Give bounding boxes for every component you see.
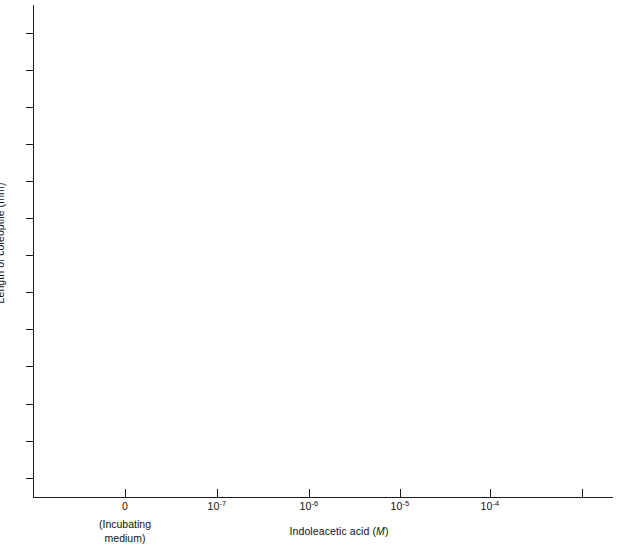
tick-label-base: 10 — [300, 500, 312, 512]
x-axis-title-unit-wrap: (M) — [369, 525, 388, 537]
tick-label-base: 10 — [481, 500, 493, 512]
y-axis-tick — [26, 181, 33, 182]
y-axis-tick — [26, 107, 33, 108]
y-axis-tick — [26, 218, 33, 219]
y-axis-tick — [26, 292, 33, 293]
x-axis-tick — [582, 489, 583, 497]
x-axis-tick-label: 10-6 — [300, 500, 319, 513]
x-axis-tick-label: 10-7 — [208, 500, 227, 513]
x-axis-tick-label: 10-5 — [391, 500, 410, 513]
x-axis-title: Indoleacetic acid (M) — [289, 525, 388, 537]
x-axis-tick — [125, 489, 126, 497]
y-axis-tick — [26, 70, 33, 71]
y-axis-tick — [26, 255, 33, 256]
x-axis-tick — [400, 489, 401, 497]
x-axis-tick — [490, 489, 491, 497]
y-axis-tick — [26, 144, 33, 145]
tick-label-exponent: -6 — [312, 499, 319, 508]
x-axis-title-unit: M — [376, 525, 385, 537]
tick-label-exponent: -4 — [493, 499, 500, 508]
y-axis-title-text: Length of coleoptile (mm) — [0, 183, 6, 320]
x-axis-title-text: Indoleacetic acid — [289, 525, 369, 537]
incubating-note-line-2: medium) — [99, 531, 151, 545]
x-axis-line — [33, 497, 613, 498]
y-axis-tick — [26, 33, 33, 34]
x-axis-tick-label: 0 — [122, 500, 128, 513]
y-axis-tick — [26, 404, 33, 405]
plot-area — [34, 5, 613, 497]
incubating-note-line-1: (Incubating — [99, 517, 151, 531]
x-axis-tick — [309, 489, 310, 497]
x-axis-tick — [217, 489, 218, 497]
y-axis-tick — [26, 478, 33, 479]
x-axis-tick-label: 10-4 — [481, 500, 500, 513]
y-axis-title: Length of coleoptile (mm) — [0, 183, 6, 320]
tick-label-base: 10 — [391, 500, 403, 512]
tick-label-exponent: -5 — [403, 499, 410, 508]
y-axis-tick — [26, 329, 33, 330]
y-axis-tick — [26, 366, 33, 367]
chart-figure: 010-710-610-510-4 (Incubatingmedium) Ind… — [0, 0, 625, 559]
tick-label-base: 10 — [208, 500, 220, 512]
y-axis-line — [33, 5, 34, 498]
y-axis-tick — [26, 441, 33, 442]
tick-label-base: 0 — [122, 500, 128, 512]
tick-label-exponent: -7 — [220, 499, 227, 508]
incubating-medium-note: (Incubatingmedium) — [99, 517, 151, 545]
